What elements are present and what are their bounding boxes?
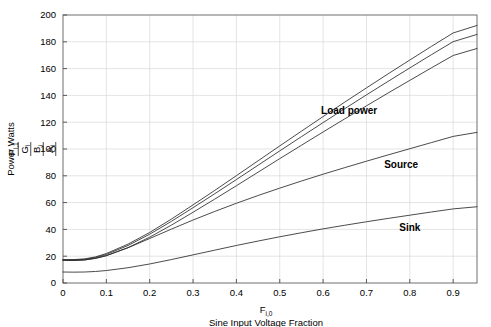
legend-symbol-g: Gi	[19, 145, 32, 154]
legend-symbol-b: Bi	[31, 145, 44, 153]
power-watts-line-chart: 02040608010012014016018020000.10.20.30.4…	[0, 0, 491, 327]
x-tick-label: 0.8	[403, 287, 416, 298]
y-tick-label: 40	[45, 224, 56, 235]
x-tick-label: 0.9	[447, 287, 460, 298]
y-tick-label: 160	[40, 63, 56, 74]
curve-source	[63, 132, 477, 260]
y-tick-label: 200	[40, 9, 56, 20]
y-tick-label: 0	[51, 277, 56, 288]
x-tick-label: 0.4	[230, 287, 243, 298]
x-axis-title: Sine Input Voltage Fraction	[209, 317, 323, 327]
x-tick-label: 0.1	[100, 287, 113, 298]
y-tick-label: 180	[40, 36, 56, 47]
x-tick-label: 0.6	[316, 287, 329, 298]
y-tick-label: 80	[45, 170, 56, 181]
x-tick-label: 0.5	[273, 287, 286, 298]
y-tick-label: 20	[45, 251, 56, 262]
y-tick-label: 140	[40, 90, 56, 101]
x-tick-label: 0.7	[360, 287, 373, 298]
x-tick-label: 0	[60, 287, 65, 298]
x-tick-label: 0.2	[143, 287, 156, 298]
annotation-source: Source	[384, 159, 418, 170]
y-tick-label: 60	[45, 197, 56, 208]
x-tick-label: 0.3	[186, 287, 199, 298]
curve-p-i-1	[63, 207, 477, 272]
annotation-load-power: Load power	[321, 105, 377, 116]
y-tick-label: 120	[40, 117, 56, 128]
chart-root: 02040608010012014016018020000.10.20.30.4…	[0, 0, 491, 327]
annotation-sink: Sink	[399, 222, 421, 233]
x-axis-symbol: Fi,0	[260, 304, 273, 317]
gridlines	[63, 15, 477, 283]
